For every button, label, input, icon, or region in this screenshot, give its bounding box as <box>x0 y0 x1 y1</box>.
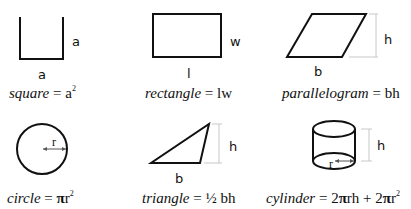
rectangle-formula: rectangle = lw <box>145 86 232 101</box>
rectangle-width-label: w <box>230 35 241 48</box>
triangle-formula: triangle = ½ bh <box>142 191 235 206</box>
parallelogram-height-label: h <box>384 33 392 46</box>
circle-diagram: r circle = πr2 <box>0 105 140 209</box>
circle-radius-label: r <box>52 136 56 148</box>
cylinder-formula: cylinder = 2πrh + 2πr2 <box>266 191 400 206</box>
cylinder-diagram: h r cylinder = 2πrh + 2πr2 <box>270 105 411 209</box>
square-side-label: a <box>72 35 80 48</box>
parallelogram-base-label: b <box>314 65 322 78</box>
circle-formula: circle = πr2 <box>7 191 74 206</box>
triangle-base-label: b <box>175 172 183 185</box>
square-bottom-label: a <box>38 68 46 81</box>
triangle-height-label: h <box>229 140 237 153</box>
triangle-diagram: h b triangle = ½ bh <box>130 105 270 209</box>
rectangle-diagram: w l rectangle = lw <box>130 0 270 105</box>
square-diagram: a a square = a2 <box>0 0 140 105</box>
square-formula: square = a2 <box>9 86 76 101</box>
cylinder-radius-label: r <box>329 158 333 170</box>
parallelogram-formula: parallelogram = bh <box>282 86 400 101</box>
cylinder-height-label: h <box>377 139 385 152</box>
rectangle-length-label: l <box>187 67 191 80</box>
parallelogram-diagram: h b parallelogram = bh <box>270 0 411 105</box>
